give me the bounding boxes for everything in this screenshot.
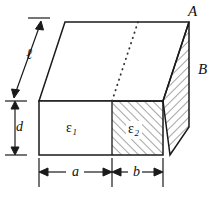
- region-label-epsilon-1: ε1: [66, 121, 77, 137]
- vertex-label-a: A: [188, 4, 197, 19]
- epsilon-1-symbol: ε: [66, 120, 72, 135]
- dimension-label-a: a: [72, 165, 79, 179]
- b-arrowhead-left: [112, 168, 121, 176]
- ell-arrowhead-bottom: [12, 89, 20, 98]
- dimension-label-d: d: [16, 120, 23, 134]
- epsilon-2-symbol: ε: [128, 121, 134, 136]
- region-label-epsilon-2: ε2: [126, 121, 142, 139]
- d-arrowhead-bottom: [11, 147, 19, 155]
- a-arrowhead-left: [39, 168, 48, 176]
- figure-container: A B ℓ d a b ε1 ε2: [0, 0, 217, 204]
- dimension-label-ell: ℓ: [26, 47, 32, 62]
- dielectric-slab-diagram: [0, 0, 217, 204]
- b-arrowhead-right: [154, 168, 163, 176]
- a-arrowhead-right: [103, 168, 112, 176]
- vertex-label-b: B: [198, 62, 207, 77]
- dimension-label-b: b: [133, 165, 140, 179]
- d-arrowhead-top: [11, 101, 19, 109]
- ell-arrowhead-top: [36, 21, 44, 30]
- epsilon-1-subscript: 1: [72, 127, 77, 137]
- slab-faces: [39, 22, 189, 155]
- epsilon-2-subscript: 2: [134, 128, 139, 138]
